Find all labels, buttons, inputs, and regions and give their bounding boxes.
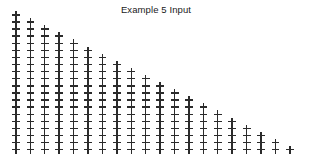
plus-marker <box>98 145 107 154</box>
plus-marker <box>257 145 266 154</box>
figure-panel: Example 5 Input <box>0 0 312 158</box>
plus-marker <box>170 145 179 154</box>
plus-marker <box>69 145 78 154</box>
plus-marker <box>112 145 121 154</box>
plus-marker <box>213 145 222 154</box>
plus-marker <box>55 145 64 154</box>
plus-marker <box>127 145 136 154</box>
plus-marker <box>40 145 49 154</box>
plus-marker <box>26 145 35 154</box>
plus-marker <box>156 145 165 154</box>
plus-marker <box>84 145 93 154</box>
plus-marker <box>199 145 208 154</box>
plus-marker <box>285 145 294 154</box>
plot-area <box>0 0 312 158</box>
plus-marker <box>185 145 194 154</box>
plus-marker <box>242 145 251 154</box>
plus-marker <box>12 145 21 154</box>
plus-marker <box>228 145 237 154</box>
plus-marker <box>141 145 150 154</box>
plus-marker <box>271 145 280 154</box>
